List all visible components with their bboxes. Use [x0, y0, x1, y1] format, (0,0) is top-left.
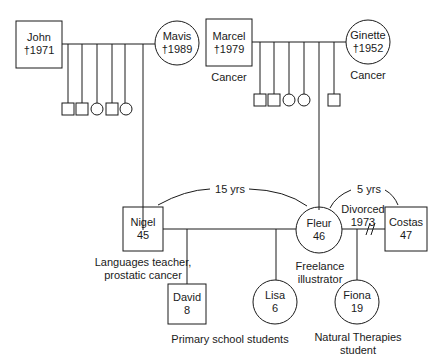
ginette-node: Ginette †1952	[346, 29, 390, 55]
fiona-note: Natural Therapies student	[312, 331, 404, 357]
marcel-info: †1979	[206, 43, 252, 56]
nigel-note: Languages teacher, prostatic cancer	[83, 256, 203, 282]
marcel-node: Marcel †1979	[206, 30, 252, 56]
ginette-info: †1952	[346, 42, 390, 55]
fleur-note-line2: illustrator	[290, 273, 350, 286]
fiona-note-line1: Natural Therapies	[312, 331, 404, 344]
david-name: David	[168, 291, 206, 304]
fiona-node: Fiona 19	[335, 289, 379, 315]
mavis-name: Mavis	[155, 30, 199, 43]
nigel-note-line2: prostatic cancer	[83, 269, 203, 282]
fiona-name: Fiona	[335, 289, 379, 302]
lisa-node: Lisa 6	[253, 289, 297, 315]
marcel-name: Marcel	[206, 30, 252, 43]
fleur-info: 46	[296, 230, 342, 243]
divorce-line1: Divorced	[338, 203, 388, 216]
fiona-info: 19	[335, 302, 379, 315]
nigel-note-line1: Languages teacher,	[83, 256, 203, 269]
costas-info: 47	[385, 229, 427, 242]
fiona-note-line2: student	[312, 344, 404, 357]
fleur-name: Fleur	[296, 217, 342, 230]
nigel-name: Nigel	[123, 216, 163, 229]
fleur-note: Freelance illustrator	[290, 260, 350, 286]
david-info: 8	[168, 304, 206, 317]
nigel-info: 45	[123, 229, 163, 242]
john-info: †1971	[16, 44, 62, 57]
ginette-note: Cancer	[346, 69, 390, 82]
ginette-name: Ginette	[346, 29, 390, 42]
john-node: John †1971	[16, 31, 62, 57]
lisa-name: Lisa	[253, 289, 297, 302]
nigel-node: Nigel 45	[123, 216, 163, 242]
fleur-note-line1: Freelance	[290, 260, 350, 273]
age-gap-fleur-costas: 5 yrs	[352, 183, 386, 196]
children-note: Primary school students	[170, 333, 290, 346]
divorce-label: Divorced 1973	[338, 203, 388, 229]
mavis-info: †1989	[155, 43, 199, 56]
fleur-node: Fleur 46	[296, 217, 342, 243]
costas-node: Costas 47	[385, 216, 427, 242]
divorce-year: 1973	[338, 216, 388, 229]
age-gap-nigel-fleur: 15 yrs	[210, 183, 250, 196]
david-node: David 8	[168, 291, 206, 317]
john-name: John	[16, 31, 62, 44]
marcel-note: Cancer	[206, 71, 252, 84]
lisa-info: 6	[253, 302, 297, 315]
mavis-node: Mavis †1989	[155, 30, 199, 56]
costas-name: Costas	[385, 216, 427, 229]
